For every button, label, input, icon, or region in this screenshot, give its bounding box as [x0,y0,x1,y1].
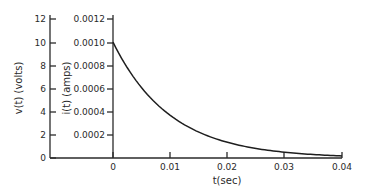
t-tick-0.02: 0.02 [217,162,237,172]
t-tick-0.01: 0.01 [160,162,180,172]
t-tick-0.04: 0.04 [332,162,352,172]
v-axis-tick-labels: 0 2 4 6 8 10 12 [35,14,47,163]
t-axis-tick-labels: 0 0.01 0.02 0.03 0.04 [110,162,352,172]
i-axis-title: i(t) (amps) [61,61,72,114]
i-tick-0.0002: 0.0002 [74,130,106,140]
v-axis-ticks [50,19,56,158]
decay-curve [113,42,342,156]
v-tick-12: 12 [35,14,46,24]
i-tick-0.0004: 0.0004 [74,107,106,117]
i-tick-0.0008: 0.0008 [74,61,106,71]
i-axis-ticks [107,19,113,135]
i-tick-0.0012: 0.0012 [74,14,106,24]
i-tick-0.0010: 0.0010 [74,38,106,48]
t-axis-ticks [113,152,342,158]
v-tick-2: 2 [40,130,46,140]
v-axis-title: v(t) (volts) [13,62,24,115]
v-tick-10: 10 [35,38,47,48]
t-axis-title: t(sec) [213,175,242,186]
v-tick-4: 4 [40,107,46,117]
chart-canvas: 0 2 4 6 8 10 12 v(t) (volts) 0.0002 0.00… [0,0,370,193]
v-tick-6: 6 [40,84,46,94]
v-tick-0: 0 [40,153,46,163]
i-tick-0.0006: 0.0006 [74,84,106,94]
v-tick-8: 8 [40,61,46,71]
t-tick-0.03: 0.03 [274,162,294,172]
i-axis-tick-labels: 0.0002 0.0004 0.0006 0.0008 0.0010 0.001… [74,14,106,140]
t-tick-0: 0 [110,162,116,172]
